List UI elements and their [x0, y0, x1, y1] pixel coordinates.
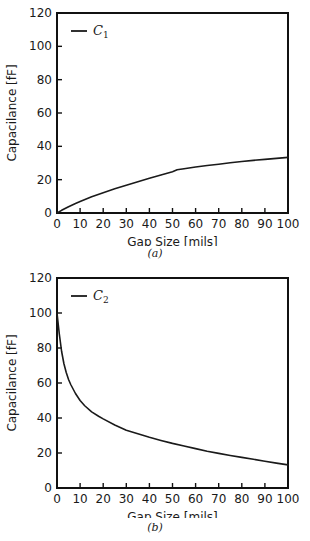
y-tick-label: 120 — [29, 271, 52, 285]
chart-capacitance-c1: 0102030405060708090100020406080100120Gap… — [0, 0, 310, 246]
x-tick-label: 20 — [96, 492, 111, 506]
x-tick-label: 10 — [72, 492, 87, 506]
x-tick-label: 40 — [142, 217, 157, 231]
x-axis-title: Gap Size [mils] — [127, 510, 218, 518]
figure-panel-a: 0102030405060708090100020406080100120Gap… — [0, 0, 310, 270]
y-tick-label: 80 — [37, 341, 52, 355]
x-tick-label: 0 — [53, 492, 61, 506]
legend-subscript: 1 — [103, 30, 109, 40]
y-axis-title: Capacilance [fF] — [5, 64, 19, 161]
x-tick-label: 100 — [277, 492, 300, 506]
x-tick-label: 60 — [188, 217, 203, 231]
x-tick-label: 100 — [277, 217, 300, 231]
y-tick-label: 0 — [44, 481, 52, 495]
x-tick-label: 50 — [165, 217, 180, 231]
x-tick-label: 30 — [119, 492, 134, 506]
y-tick-label: 20 — [37, 446, 52, 460]
y-tick-label: 80 — [37, 73, 52, 87]
x-tick-label: 90 — [257, 492, 272, 506]
y-axis-title: Capacilance [fF] — [5, 334, 19, 431]
y-tick-label: 100 — [29, 39, 52, 53]
y-tick-label: 0 — [44, 206, 52, 220]
x-tick-label: 40 — [142, 492, 157, 506]
panel-caption-b: (b) — [0, 522, 310, 533]
y-tick-label: 40 — [37, 139, 52, 153]
y-tick-label: 60 — [37, 376, 52, 390]
x-tick-label: 70 — [211, 492, 226, 506]
y-tick-label: 60 — [37, 106, 52, 120]
plot-frame — [57, 13, 288, 213]
x-tick-label: 10 — [72, 217, 87, 231]
figure-panel-b: 0102030405060708090100020406080100120Gap… — [0, 268, 310, 541]
x-tick-label: 90 — [257, 217, 272, 231]
x-tick-label: 70 — [211, 217, 226, 231]
y-tick-label: 20 — [37, 173, 52, 187]
x-tick-label: 20 — [96, 217, 111, 231]
y-tick-label: 100 — [29, 306, 52, 320]
y-tick-label: 40 — [37, 411, 52, 425]
x-tick-label: 30 — [119, 217, 134, 231]
chart-capacitance-c2: 0102030405060708090100020406080100120Gap… — [0, 268, 310, 518]
legend-subscript: 2 — [103, 295, 109, 305]
x-tick-label: 50 — [165, 492, 180, 506]
x-tick-label: 80 — [234, 217, 249, 231]
y-tick-label: 120 — [29, 6, 52, 20]
x-tick-label: 80 — [234, 492, 249, 506]
panel-caption-a: (a) — [0, 248, 310, 259]
x-tick-label: 0 — [53, 217, 61, 231]
x-tick-label: 60 — [188, 492, 203, 506]
x-axis-title: Gap Size [mils] — [127, 235, 218, 246]
plot-frame — [57, 278, 288, 488]
